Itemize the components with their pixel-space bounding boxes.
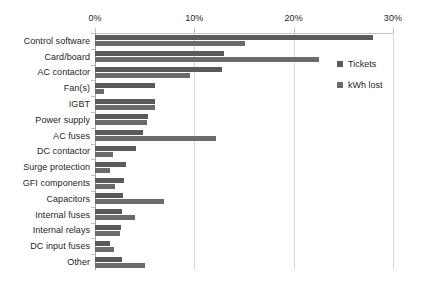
legend-label: Tickets <box>348 59 376 69</box>
category-label: Internal relays <box>33 225 90 235</box>
bar-tickets <box>95 51 224 56</box>
x-axis-tick-label: 20% <box>284 13 302 23</box>
category-label: DC contactor <box>37 146 90 156</box>
category-tick <box>91 49 95 50</box>
category-label: AC contactor <box>37 67 90 77</box>
bar-kwh-lost <box>95 152 113 157</box>
bar-tickets <box>95 67 222 72</box>
category-tick <box>91 254 95 255</box>
bar-group: DC contactor <box>95 144 393 160</box>
legend-label: kWh lost <box>348 80 383 90</box>
bar-kwh-lost <box>95 73 190 78</box>
bar-group: IGBT <box>95 96 393 112</box>
category-label: Internal fuses <box>35 210 90 220</box>
bar-tickets <box>95 114 148 119</box>
category-label: Capacitors <box>46 194 90 204</box>
category-tick <box>91 207 95 208</box>
category-label: Card/board <box>44 52 90 62</box>
category-tick <box>91 33 95 34</box>
category-tick <box>91 144 95 145</box>
bar-group: Internal fuses <box>95 207 393 223</box>
bar-kwh-lost <box>95 263 145 268</box>
category-tick <box>91 223 95 224</box>
legend-swatch-icon <box>337 61 343 67</box>
bar-kwh-lost <box>95 120 147 125</box>
bar-kwh-lost <box>95 168 110 173</box>
bar-tickets <box>95 178 124 183</box>
category-tick <box>91 175 95 176</box>
category-tick <box>91 80 95 81</box>
category-label: Power supply <box>35 115 90 125</box>
bar-kwh-lost <box>95 89 104 94</box>
category-label: Surge protection <box>23 162 90 172</box>
bar-group: Capacitors <box>95 191 393 207</box>
bar-group: Power supply <box>95 112 393 128</box>
bar-kwh-lost <box>95 215 135 220</box>
gridline <box>393 33 394 270</box>
bar-group: Other <box>95 254 393 270</box>
category-tick <box>91 128 95 129</box>
bar-kwh-lost <box>95 41 245 46</box>
bar-kwh-lost <box>95 105 155 110</box>
category-tick <box>91 96 95 97</box>
bar-group: Surge protection <box>95 159 393 175</box>
bar-tickets <box>95 225 121 230</box>
legend-item[interactable]: Tickets <box>337 59 383 69</box>
bar-tickets <box>95 257 122 262</box>
bar-tickets <box>95 193 123 198</box>
x-axis-tick-label: 10% <box>185 13 203 23</box>
bar-tickets <box>95 83 155 88</box>
bar-group: Control software <box>95 33 393 49</box>
bar-chart: 0%10%20%30% Control softwareCard/boardAC… <box>0 0 421 291</box>
bar-kwh-lost <box>95 136 216 141</box>
bar-tickets <box>95 146 136 151</box>
category-tick <box>91 159 95 160</box>
bar-kwh-lost <box>95 231 120 236</box>
category-tick <box>91 191 95 192</box>
bar-tickets <box>95 35 373 40</box>
x-axis-tick-label: 30% <box>384 13 402 23</box>
legend-item[interactable]: kWh lost <box>337 80 383 90</box>
bar-group: AC fuses <box>95 128 393 144</box>
category-label: AC fuses <box>53 131 90 141</box>
bar-group: Internal relays <box>95 223 393 239</box>
category-label: IGBT <box>69 99 90 109</box>
bar-kwh-lost <box>95 57 319 62</box>
bar-tickets <box>95 162 126 167</box>
bar-kwh-lost <box>95 184 115 189</box>
category-tick <box>91 112 95 113</box>
bar-group: GFI components <box>95 175 393 191</box>
category-label: Fan(s) <box>64 83 90 93</box>
chart-legend: TicketskWh lost <box>337 59 383 90</box>
bar-tickets <box>95 209 122 214</box>
bar-group: DC input fuses <box>95 238 393 254</box>
category-label: Other <box>67 257 90 267</box>
category-label: Control software <box>24 36 90 46</box>
category-label: GFI components <box>23 178 90 188</box>
legend-swatch-icon <box>337 82 343 88</box>
bar-tickets <box>95 241 110 246</box>
bar-kwh-lost <box>95 247 114 252</box>
bar-tickets <box>95 130 143 135</box>
category-tick <box>91 65 95 66</box>
x-axis-tick-label: 0% <box>88 13 101 23</box>
bar-kwh-lost <box>95 199 164 204</box>
category-label: DC input fuses <box>30 241 90 251</box>
category-tick <box>91 238 95 239</box>
bar-tickets <box>95 99 155 104</box>
